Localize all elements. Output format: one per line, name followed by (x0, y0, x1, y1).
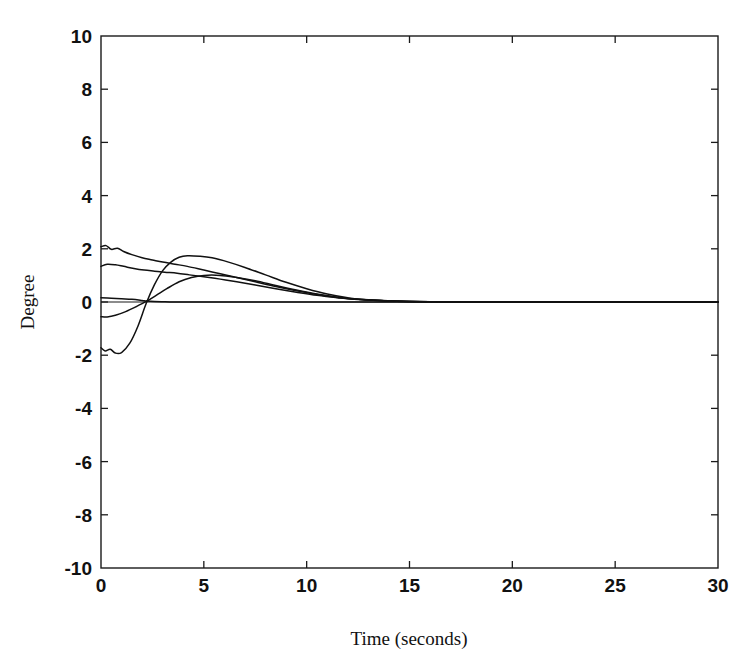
y-tick-label: 2 (81, 239, 92, 260)
y-tick-label: -4 (75, 398, 92, 419)
y-axis-title: Degree (17, 275, 38, 330)
data-curve-curve-5 (101, 256, 718, 354)
data-curve-curve-2 (101, 264, 718, 302)
x-tick-label: 5 (199, 575, 210, 596)
chart-svg: 051015202530 -10-8-6-4-20246810 Time (se… (0, 0, 747, 668)
y-tick-label: -8 (75, 505, 92, 526)
x-axis-tick-labels: 051015202530 (96, 575, 729, 596)
y-tick-label: 6 (81, 132, 92, 153)
data-curve-curve-1 (101, 246, 718, 303)
y-tick-label: -10 (65, 558, 92, 579)
y-tick-label: -2 (75, 345, 92, 366)
x-axis-title: Time (seconds) (351, 628, 468, 650)
y-axis-tick-labels: -10-8-6-4-20246810 (65, 26, 93, 579)
y-tick-label: 4 (81, 186, 92, 207)
data-curves (101, 246, 718, 354)
x-tick-label: 25 (605, 575, 627, 596)
y-tick-label: 8 (81, 79, 92, 100)
x-tick-label: 10 (296, 575, 317, 596)
y-tick-label: 10 (71, 26, 92, 47)
y-tick-label: 0 (81, 292, 92, 313)
y-tick-label: -6 (75, 452, 92, 473)
x-tick-label: 30 (707, 575, 728, 596)
x-tick-label: 15 (399, 575, 421, 596)
x-tick-label: 0 (96, 575, 107, 596)
chart-figure: 051015202530 -10-8-6-4-20246810 Time (se… (0, 0, 747, 668)
data-curve-curve-4 (101, 275, 718, 317)
x-tick-label: 20 (502, 575, 523, 596)
